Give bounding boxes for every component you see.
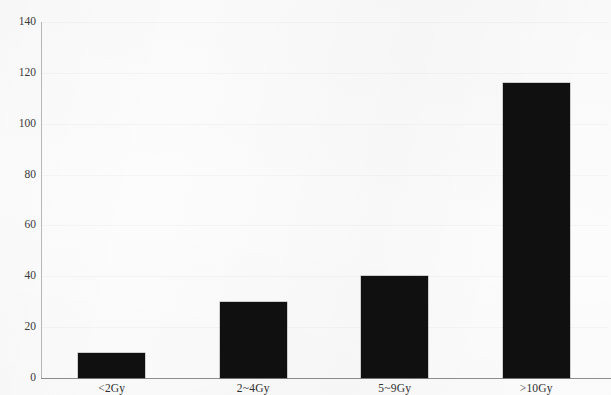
bar (78, 353, 145, 378)
y-tick-label: 120 (19, 67, 36, 79)
bar (361, 276, 428, 378)
y-tick-label: 80 (25, 169, 37, 181)
y-tick-label: 60 (25, 220, 37, 232)
x-tick-label: >10Gy (466, 382, 608, 394)
x-tick-label: 2~4Gy (183, 382, 325, 394)
y-axis-tick-labels: 020406080100120140 (0, 0, 36, 395)
chart-title (0, 0, 611, 2)
x-tick-label: <2Gy (41, 382, 183, 394)
bar (503, 83, 570, 378)
y-tick-label: 140 (19, 16, 36, 28)
bar-chart: 020406080100120140 <2Gy2~4Gy5~9Gy>10Gy (0, 0, 611, 395)
x-tick-label: 5~9Gy (324, 382, 466, 394)
bar (220, 302, 287, 378)
y-tick-label: 40 (25, 271, 37, 283)
y-tick-label: 0 (30, 372, 36, 384)
y-tick-label: 20 (25, 321, 37, 333)
plot-area (41, 22, 607, 378)
x-axis-line (41, 378, 611, 379)
y-tick-label: 100 (19, 118, 36, 130)
